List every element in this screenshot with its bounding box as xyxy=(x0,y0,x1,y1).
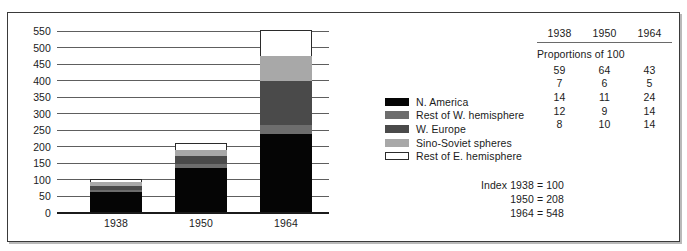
bar-segment-1950-w-europe[interactable] xyxy=(175,156,227,164)
table-cell: 7 xyxy=(537,77,582,89)
table-header-rule xyxy=(537,42,672,43)
legend-label: Rest of W. hemisphere xyxy=(416,109,524,121)
y-axis-tick-label-0: 0 xyxy=(45,207,51,219)
legend-label: N. America xyxy=(416,96,468,108)
legend-label: Sino-Soviet spheres xyxy=(416,137,512,149)
legend-swatch-rest-w-hemisphere-icon xyxy=(385,111,409,119)
table-cell: 14 xyxy=(627,105,672,117)
table-row: 12914 xyxy=(537,104,672,118)
plot-area: 050100150200250300350400450500550 193819… xyxy=(57,31,329,213)
legend-swatch-w-europe-icon xyxy=(385,125,409,133)
legend-item-n-america[interactable]: N. America xyxy=(385,95,535,109)
legend-item-w-europe[interactable]: W. Europe xyxy=(385,122,535,136)
table-body: 5964437651411241291481014 xyxy=(537,63,672,131)
legend-swatch-n-america-icon xyxy=(385,98,409,106)
table-row: 81014 xyxy=(537,117,672,131)
index-note: Index 1938 = 1001950 = 2081964 = 548 xyxy=(404,178,564,220)
legend-swatch-sino-soviet-icon xyxy=(385,139,409,147)
y-axis-tick-label-200: 200 xyxy=(33,141,51,153)
bar-segment-1964-w-europe[interactable] xyxy=(260,81,312,125)
table-row: 596443 xyxy=(537,63,672,77)
bar-1964[interactable]: 1964 xyxy=(260,30,312,212)
legend-item-rest-of-w-hemisphere[interactable]: Rest of W. hemisphere xyxy=(385,109,535,123)
legend-item-rest-of-e-hemisphere[interactable]: Rest of E. hemisphere xyxy=(385,149,535,163)
y-axis-tick-label-150: 150 xyxy=(33,157,51,169)
chart-legend: N. AmericaRest of W. hemisphereW. Europe… xyxy=(385,95,535,163)
table-cell: 11 xyxy=(582,91,627,103)
x-axis-line xyxy=(57,212,329,213)
table-cell: 14 xyxy=(537,91,582,103)
table-cell: 5 xyxy=(627,77,672,89)
bar-segment-1964-n-america[interactable] xyxy=(260,134,312,212)
data-table: 193819501964 Proportions of 100 59644376… xyxy=(537,27,672,131)
bar-segment-1964-rest-of-e-hemisphere[interactable] xyxy=(260,30,312,55)
table-cell: 8 xyxy=(537,118,582,130)
table-cell: 9 xyxy=(582,105,627,117)
y-axis-tick-label-350: 350 xyxy=(33,91,51,103)
legend-label: Rest of E. hemisphere xyxy=(416,150,522,162)
y-axis-tick-label-50: 50 xyxy=(39,190,51,202)
table-cell: 59 xyxy=(537,64,582,76)
bar-segment-1950-n-america[interactable] xyxy=(175,168,227,212)
bar-1950[interactable]: 1950 xyxy=(175,143,227,212)
legend-item-sino-soviet-spheres[interactable]: Sino-Soviet spheres xyxy=(385,136,535,150)
legend-swatch-rest-e-hemisphere-icon xyxy=(385,152,409,160)
y-axis-tick-label-500: 500 xyxy=(33,42,51,54)
x-axis-tick-label-1938: 1938 xyxy=(90,217,142,229)
table-column-header-1938: 1938 xyxy=(537,27,582,39)
y-axis-tick-label-100: 100 xyxy=(33,174,51,186)
table-column-header-1964: 1964 xyxy=(627,27,672,39)
index-note-line-2: 1950 = 208 xyxy=(404,192,564,206)
table-cell: 6 xyxy=(582,77,627,89)
table-row: 765 xyxy=(537,77,672,91)
table-cell: 43 xyxy=(627,64,672,76)
bar-segment-1950-rest-of-e-hemisphere[interactable] xyxy=(175,143,227,150)
y-axis-tick-label-450: 450 xyxy=(33,58,51,70)
y-axis-tick-label-550: 550 xyxy=(33,25,51,37)
x-axis-tick-label-1950: 1950 xyxy=(175,217,227,229)
bar-segment-1938-n-america[interactable] xyxy=(90,192,142,212)
table-column-header-1950: 1950 xyxy=(582,27,627,39)
y-axis-tick-label-250: 250 xyxy=(33,124,51,136)
bar-segment-1964-rest-of-w-hemisphere[interactable] xyxy=(260,125,312,134)
table-cell: 12 xyxy=(537,105,582,117)
index-note-line-1: Index 1938 = 100 xyxy=(404,178,564,192)
y-axis-tick-label-400: 400 xyxy=(33,75,51,87)
table-header-row: 193819501964 xyxy=(537,27,672,42)
table-caption: Proportions of 100 xyxy=(537,48,672,63)
table-cell: 64 xyxy=(582,64,627,76)
figure-container: 050100150200250300350400450500550 193819… xyxy=(0,0,687,251)
table-row: 141124 xyxy=(537,90,672,104)
bar-segment-1964-sino-soviet-spheres[interactable] xyxy=(260,56,312,81)
x-axis-tick-label-1964: 1964 xyxy=(260,217,312,229)
table-cell: 10 xyxy=(582,118,627,130)
legend-label: W. Europe xyxy=(416,123,466,135)
bar-1938[interactable]: 1938 xyxy=(90,179,142,212)
index-note-line-3: 1964 = 548 xyxy=(404,206,564,220)
table-cell: 24 xyxy=(627,91,672,103)
y-axis-tick-label-300: 300 xyxy=(33,108,51,120)
table-cell: 14 xyxy=(627,118,672,130)
